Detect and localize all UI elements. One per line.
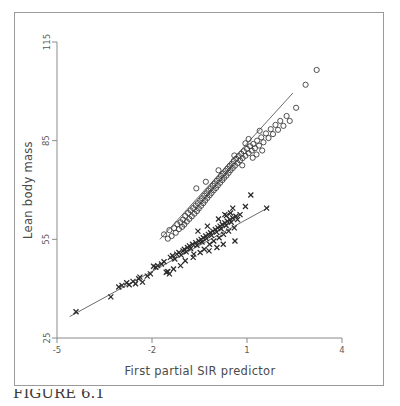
data-point-cross	[217, 235, 222, 240]
data-point-circle	[216, 168, 221, 173]
data-point-circle	[266, 135, 271, 140]
x-tick-label: -5	[53, 345, 61, 355]
data-point-circle	[165, 236, 170, 241]
data-point-cross	[178, 263, 183, 268]
series-crosses	[74, 192, 270, 314]
data-point-circle	[281, 123, 286, 128]
data-point-circle	[293, 105, 298, 110]
data-point-cross	[248, 192, 253, 197]
data-point-cross	[205, 224, 210, 229]
y-axis-title: Lean body mass	[21, 141, 35, 239]
x-tick-label: 1	[244, 345, 249, 355]
fit-lines	[70, 93, 293, 317]
y-axis-tick-labels: 255585115	[42, 34, 52, 344]
data-point-circle	[303, 82, 308, 87]
data-point-cross	[140, 280, 145, 285]
data-point-circle	[284, 113, 289, 118]
data-point-cross	[230, 206, 235, 211]
y-tick-label: 115	[42, 34, 52, 50]
data-point-cross	[108, 294, 113, 299]
figure-caption: FIGURE 6.1	[13, 389, 193, 406]
x-axis-title: First partial SIR predictor	[125, 364, 276, 378]
data-point-cross	[221, 242, 226, 247]
data-point-cross	[243, 204, 248, 209]
data-point-circle	[259, 135, 264, 140]
x-axis-tick-labels: -5-214	[53, 345, 345, 355]
figure-caption-text: FIGURE 6.1	[13, 389, 193, 401]
data-point-cross	[211, 238, 216, 243]
x-tick-label: -2	[148, 345, 156, 355]
data-point-circle	[240, 163, 245, 168]
data-point-cross	[232, 238, 237, 243]
x-axis-ticks	[57, 338, 342, 343]
data-point-cross	[207, 248, 212, 253]
data-point-circle	[273, 122, 278, 127]
data-point-cross	[221, 232, 226, 237]
data-point-circle	[261, 140, 266, 145]
y-tick-label: 55	[42, 234, 52, 245]
data-point-circle	[268, 127, 273, 132]
data-point-circle	[194, 186, 199, 191]
data-point-cross	[216, 216, 221, 221]
data-point-circle	[314, 67, 319, 72]
scatter-plot: 255585115 -5-214 First partial SIR predi…	[0, 0, 400, 406]
y-axis-ticks	[52, 42, 57, 338]
crosses-fit	[70, 207, 270, 317]
data-point-circle	[278, 118, 283, 123]
x-tick-label: 4	[339, 345, 344, 355]
data-point-cross	[195, 229, 200, 234]
data-point-cross	[202, 247, 207, 252]
data-point-cross	[133, 281, 138, 286]
data-point-cross	[183, 258, 188, 263]
data-point-circle	[270, 131, 275, 136]
data-point-cross	[162, 259, 167, 264]
data-point-circle	[260, 148, 265, 153]
axes	[57, 42, 342, 338]
y-tick-label: 25	[42, 333, 52, 344]
data-point-cross	[191, 255, 196, 260]
data-point-cross	[264, 206, 269, 211]
data-point-cross	[171, 266, 176, 271]
data-point-circle	[275, 127, 280, 132]
data-point-circle	[287, 118, 292, 123]
data-point-circle	[254, 152, 259, 157]
y-tick-label: 85	[42, 135, 52, 146]
data-point-circle	[203, 179, 208, 184]
data-point-cross	[214, 245, 219, 250]
